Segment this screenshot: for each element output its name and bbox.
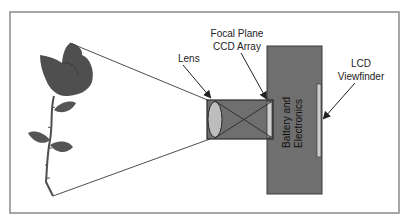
label-battery-line2: Electronics [293,99,304,148]
label-lcd-line1: LCD [351,58,371,69]
diagram-frame [10,12,399,213]
label-lcd-line2: Viewfinder [338,71,385,82]
digital-camera-diagram: Lens Focal Plane CCD Array Battery and E… [0,0,408,220]
lcd-viewfinder-panel [317,84,321,157]
label-focal-plane-line2: CCD Array [213,41,261,52]
label-lens: Lens [178,53,200,64]
label-battery-line1: Battery and [281,97,292,148]
ccd-sensor [267,102,272,137]
label-focal-plane-line1: Focal Plane [211,28,264,39]
diagram-canvas: Lens Focal Plane CCD Array Battery and E… [0,0,408,220]
lens-element [208,102,222,138]
